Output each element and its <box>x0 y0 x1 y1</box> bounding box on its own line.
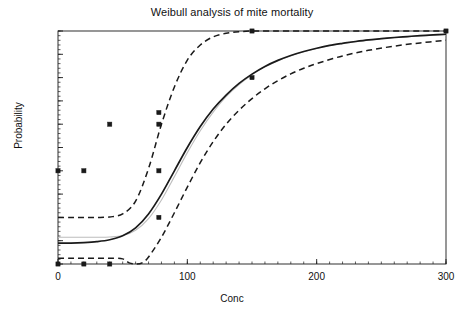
x-tick-label: 200 <box>297 272 337 282</box>
x-axis-tick-labels: 0100200300 <box>0 0 464 310</box>
chart-figure: Weibull analysis of mite mortality Proba… <box>0 0 464 310</box>
x-tick-label: 300 <box>426 272 464 282</box>
x-tick-label: 100 <box>167 272 207 282</box>
x-tick-label: 0 <box>38 272 78 282</box>
